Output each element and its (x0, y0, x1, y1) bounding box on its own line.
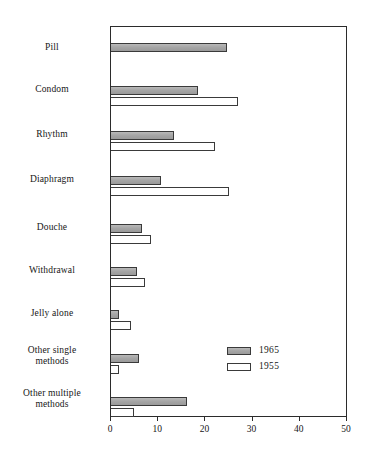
bar-jelly-alone-1955 (111, 321, 131, 330)
category-label-diaphragm: Diaphragm (0, 174, 104, 185)
category-label-other-single-methods: Other single methods (0, 345, 104, 367)
gray-filled-swatch-icon (227, 347, 251, 355)
legend-label-1955: 1955 (259, 361, 279, 372)
category-label-pill: Pill (0, 42, 104, 53)
bar-other-multiple-methods-1965 (111, 397, 187, 406)
x-tick-label-10: 10 (152, 424, 162, 435)
x-tick-0 (110, 416, 111, 421)
bar-rhythm-1965 (111, 131, 174, 140)
category-label-jelly-alone: Jelly alone (0, 308, 104, 319)
x-tick-30 (252, 416, 253, 421)
bar-diaphragm-1965 (111, 176, 161, 185)
x-tick-label-20: 20 (200, 424, 210, 435)
x-tick-40 (299, 416, 300, 421)
chart-legend: 1965 1955 (227, 344, 305, 376)
legend-item-1965: 1965 (227, 344, 305, 357)
bar-rhythm-1955 (111, 142, 215, 151)
category-label-douche: Douche (0, 222, 104, 233)
bar-jelly-alone-1965 (111, 310, 119, 319)
x-tick-label-30: 30 (247, 424, 257, 435)
legend-label-1965: 1965 (259, 345, 279, 356)
x-tick-label-40: 40 (294, 424, 304, 435)
x-tick-label-50: 50 (341, 424, 351, 435)
bar-other-single-methods-1955 (111, 365, 119, 374)
bar-other-single-methods-1965 (111, 354, 139, 363)
category-axis-labels: Pill Condom Rhythm Diaphragm Douche With… (0, 26, 104, 417)
category-label-condom: Condom (0, 84, 104, 95)
x-tick-20 (204, 416, 205, 421)
bar-withdrawal-1955 (111, 278, 145, 287)
bar-condom-1955 (111, 97, 238, 106)
bar-douche-1955 (111, 235, 151, 244)
bar-chart: Pill Condom Rhythm Diaphragm Douche With… (0, 0, 371, 464)
category-label-other-multiple-methods: Other multiple methods (0, 388, 104, 410)
bar-diaphragm-1955 (111, 187, 229, 196)
bar-condom-1965 (111, 86, 198, 95)
bar-withdrawal-1965 (111, 267, 137, 276)
x-tick-label-0: 0 (108, 424, 113, 435)
bar-douche-1965 (111, 224, 142, 233)
category-label-withdrawal: Withdrawal (0, 265, 104, 276)
white-filled-swatch-icon (227, 363, 251, 371)
category-label-rhythm: Rhythm (0, 129, 104, 140)
x-tick-50 (346, 416, 347, 421)
legend-item-1955: 1955 (227, 360, 305, 373)
x-axis: 01020304050 (110, 416, 347, 446)
bar-pill-1965 (111, 43, 227, 52)
x-tick-10 (157, 416, 158, 421)
